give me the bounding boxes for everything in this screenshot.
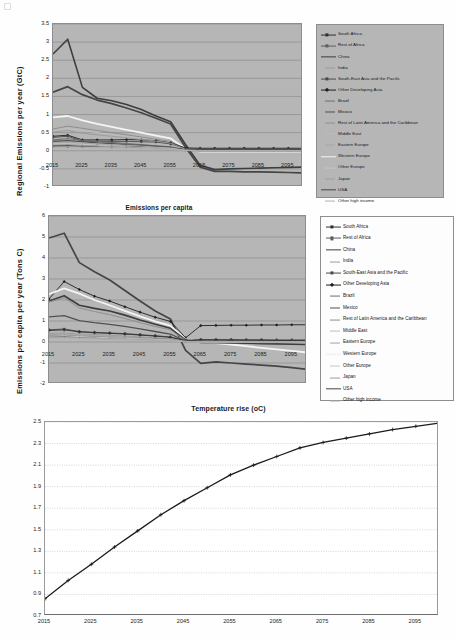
legend-item[interactable]: India — [319, 62, 441, 73]
chart2-x-tick-labels: 201520252035204520552065207520852095 — [48, 351, 306, 361]
y-tick-label: 2.1 — [33, 461, 41, 467]
y-tick-label: 5 — [42, 233, 45, 239]
legend-label: India — [343, 259, 353, 264]
y-tick-label: -2 — [40, 380, 45, 386]
x-tick-label: 2055 — [163, 351, 175, 357]
data-point — [108, 331, 112, 335]
legend-item[interactable]: Japan — [319, 173, 441, 184]
y-tick-label: 0.5 — [41, 129, 49, 135]
legend-swatch-middle-east — [324, 327, 343, 336]
legend-item[interactable]: USA — [324, 383, 451, 395]
chart1-series-canvas — [53, 24, 301, 185]
legend-label: Western Europe — [338, 154, 370, 158]
legend-item[interactable]: South Africa — [324, 221, 451, 233]
legend-label: Rest of Africa — [343, 236, 371, 241]
x-tick-label: 2045 — [177, 618, 189, 624]
legend-swatch-western-europe — [319, 152, 338, 161]
x-tick-label: 2015 — [42, 351, 54, 357]
legend-swatch-usa — [319, 185, 338, 194]
data-point — [123, 332, 127, 336]
legend-item[interactable]: Japan — [324, 372, 451, 384]
legend-item[interactable]: USA — [319, 184, 441, 195]
legend-label: USA — [343, 387, 353, 392]
data-point — [78, 288, 81, 291]
legend-swatch-brazil — [319, 97, 338, 106]
y-tick-label: 1.1 — [33, 569, 41, 575]
legend-item[interactable]: South Africa — [319, 29, 441, 40]
data-point — [53, 136, 54, 138]
legend-label: Japan — [343, 375, 356, 380]
legend-item[interactable]: Rest of Africa — [319, 40, 441, 51]
data-point — [62, 328, 66, 332]
legend-label: Rest of Latin America and the Caribbean — [338, 121, 418, 125]
legend-swatch-south-africa — [324, 222, 343, 231]
legend-label: USA — [338, 188, 347, 192]
legend-item[interactable]: Rest of Latin America and the Caribbean — [319, 118, 441, 129]
legend-item[interactable]: Middle East — [324, 325, 451, 337]
legend-item[interactable]: Brazil — [319, 96, 441, 107]
x-tick-label: 2015 — [38, 618, 50, 624]
legend-item[interactable]: India — [324, 256, 451, 268]
legend-label: Mexico — [338, 110, 352, 114]
legend-label: China — [338, 55, 350, 59]
series-line — [49, 298, 305, 342]
chart2-title: Emissions per capita — [0, 204, 318, 211]
legend-item[interactable]: Eastern Europe — [319, 140, 441, 151]
legend-item[interactable]: Western Europe — [324, 349, 451, 361]
legend-label: Eastern Europe — [338, 143, 369, 147]
legend-label: South Africa — [343, 225, 368, 230]
legend-item[interactable]: Western Europe — [319, 151, 441, 162]
legend-marker — [326, 33, 329, 36]
legend-item[interactable]: Mexico — [324, 302, 451, 314]
legend-label: Middle East — [338, 132, 361, 136]
legend-item[interactable]: China — [324, 244, 451, 256]
y-tick-label: 2 — [46, 74, 49, 80]
y-tick-label: -1 — [40, 359, 45, 365]
legend-item[interactable]: China — [319, 51, 441, 62]
legend-item[interactable]: Other Developing Asia — [319, 84, 441, 95]
data-point — [123, 305, 126, 308]
y-tick-label: -1 — [44, 183, 49, 189]
legend-label: Rest of Latin America and the Caribbean — [343, 317, 427, 322]
legend-item[interactable]: Rest of Latin America and the Caribbean — [324, 314, 451, 326]
chart2-y-tick-labels: 6543210-1-2 — [24, 215, 45, 383]
data-point — [154, 316, 157, 319]
legend-item[interactable]: Mexico — [319, 107, 441, 118]
legend-swatch-other-developing-asia — [319, 86, 338, 95]
y-tick-label: 1.5 — [33, 526, 41, 532]
legend-label: Eastern Europe — [343, 340, 375, 345]
legend-item[interactable]: Middle East — [319, 129, 441, 140]
legend-swatch-mexico — [324, 303, 343, 312]
legend-swatch-western-europe — [324, 350, 343, 359]
legend-marker — [326, 44, 329, 47]
legend-label: Other high income — [343, 398, 381, 403]
legend-item[interactable]: Other Europe — [319, 162, 441, 173]
legend-label: Brazil — [338, 99, 349, 103]
x-tick-label: 2035 — [130, 618, 142, 624]
x-tick-label: 2055 — [163, 162, 175, 168]
chart3-x-tick-labels: 201520252035204520552065207520852095 — [44, 618, 438, 628]
data-point — [290, 323, 293, 326]
x-tick-label: 2085 — [362, 618, 374, 624]
x-tick-label: 2085 — [252, 162, 264, 168]
x-tick-label: 2065 — [193, 162, 205, 168]
y-tick-label: 3 — [46, 38, 49, 44]
data-point — [214, 324, 217, 327]
legend-label: Japan — [338, 177, 350, 181]
legend-item[interactable]: Eastern Europe — [324, 337, 451, 349]
y-tick-label: 0 — [42, 338, 45, 344]
legend-label: Other Developing Asia — [338, 88, 382, 92]
legend-swatch-eastern-europe — [324, 338, 343, 347]
data-point — [93, 331, 97, 335]
legend-label: Other Developing Asia — [343, 282, 389, 287]
legend-item[interactable]: Other Developing Asia — [324, 279, 451, 291]
legend-item[interactable]: Brazil — [324, 291, 451, 303]
legend-item[interactable]: South-East Asia and the Pacific — [319, 73, 441, 84]
legend-item[interactable]: Rest of Africa — [324, 233, 451, 245]
legend-label: Brazil — [343, 294, 355, 299]
legend-item[interactable]: South-East Asia and the Pacific — [324, 267, 451, 279]
x-tick-label: 2085 — [254, 351, 266, 357]
legend-swatch-rest-of-latin-america-and-the-caribbean — [324, 315, 343, 324]
legend-label: Other high income — [338, 199, 374, 203]
legend-item[interactable]: Other Europe — [324, 360, 451, 372]
